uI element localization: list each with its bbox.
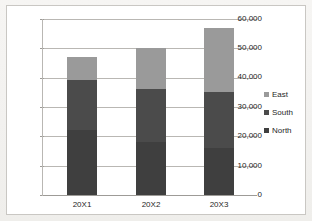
y-axis-label-20000: 20,000 (238, 132, 262, 140)
y-axis-label-30000: 30,000 (238, 103, 262, 111)
y-axis-label-50000: 50,000 (238, 44, 262, 52)
legend-label-south: South (272, 109, 293, 117)
bar-20X1[interactable] (67, 57, 97, 195)
legend-label-north: North (272, 127, 292, 135)
y-axis-line (42, 19, 43, 196)
bar-segment-20X3-north[interactable] (204, 148, 234, 195)
x-axis-line (44, 195, 257, 196)
bar-segment-20X3-south[interactable] (204, 92, 234, 148)
bar-segment-20X1-north[interactable] (67, 130, 97, 195)
bar-segment-20X1-south[interactable] (67, 80, 97, 130)
x-axis-label-20X2: 20X2 (126, 200, 176, 209)
x-axis-label-20X1: 20X1 (57, 200, 107, 209)
bar-segment-20X2-east[interactable] (136, 48, 166, 89)
y-axis-label-60000: 60,000 (238, 15, 262, 23)
y-axis-label-10000: 10,000 (238, 162, 262, 170)
legend-swatch-east-icon (264, 92, 269, 97)
bar-segment-20X2-north[interactable] (136, 142, 166, 195)
chart-legend: East South North (264, 90, 293, 144)
legend-label-east: East (272, 91, 288, 99)
x-axis-label-20X3: 20X3 (194, 200, 244, 209)
bar-segment-20X2-south[interactable] (136, 89, 166, 142)
y-axis-label-0: 0 (258, 191, 262, 199)
bar-segment-20X1-east[interactable] (67, 57, 97, 80)
bar-segment-20X3-east[interactable] (204, 28, 234, 92)
legend-item-south[interactable]: South (264, 108, 293, 117)
bar-20X2[interactable] (136, 48, 166, 195)
gridline-60000 (44, 19, 257, 20)
chart-container: 60,000 50,000 40,000 30,000 20,000 10,00… (0, 0, 312, 221)
legend-item-north[interactable]: North (264, 126, 293, 135)
bar-20X3[interactable] (204, 28, 234, 195)
legend-item-east[interactable]: East (264, 90, 293, 99)
legend-swatch-north-icon (264, 128, 269, 133)
plot-area (44, 19, 257, 195)
legend-swatch-south-icon (264, 110, 269, 115)
y-axis-label-40000: 40,000 (238, 73, 262, 81)
